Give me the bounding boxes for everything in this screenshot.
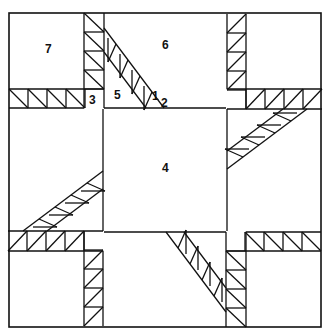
label-1: 1 [152,89,159,103]
label-7: 7 [45,42,52,56]
label-6: 6 [162,38,169,52]
quilt-block-diagram: 7 6 3 5 1 2 4 [0,0,328,333]
label-3: 3 [89,93,96,107]
label-4: 4 [162,161,169,175]
label-5: 5 [114,88,121,102]
label-2: 2 [161,96,168,110]
